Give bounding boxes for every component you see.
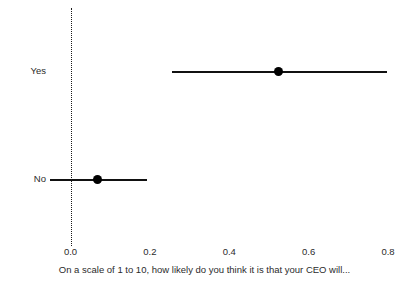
interval-row-no	[0, 171, 409, 189]
point-estimate-marker	[274, 67, 283, 76]
zero-reference-line	[71, 8, 72, 246]
x-tick-label-0: 0.0	[64, 246, 77, 257]
x-axis-title: On a scale of 1 to 10, how likely do you…	[0, 264, 409, 275]
x-tick-label-4: 0.8	[381, 246, 394, 257]
x-tick-label-1: 0.2	[143, 246, 156, 257]
dot-whisker-chart: Yes No Islamic loans? 0.0 0.2 0.4 0.6 0.…	[0, 0, 409, 286]
plot-area	[0, 0, 409, 286]
x-tick-label-3: 0.6	[302, 246, 315, 257]
y-tick-label-no: No	[0, 174, 46, 184]
point-estimate-marker	[93, 175, 102, 184]
interval-row-yes	[0, 63, 409, 81]
x-tick-label-2: 0.4	[223, 246, 236, 257]
y-tick-label-yes: Yes	[0, 66, 46, 76]
